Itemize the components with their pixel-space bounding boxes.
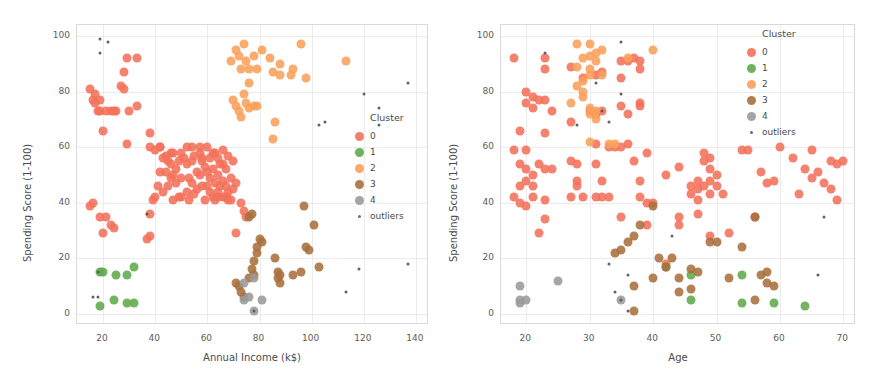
data-point-cluster-0 — [573, 159, 582, 168]
legend-item-0[interactable]: 0 — [740, 44, 796, 60]
data-point-cluster-0 — [826, 184, 835, 193]
data-point-cluster-3 — [763, 268, 772, 277]
data-point-cluster-outliers — [357, 268, 360, 271]
legend-item-1[interactable]: 1 — [348, 144, 404, 160]
y-tick-label: 80 — [46, 86, 70, 96]
y-tick-label: 20 — [470, 252, 494, 262]
data-point-cluster-0 — [156, 168, 165, 177]
x-tick-label: 20 — [96, 333, 107, 343]
data-point-cluster-outliers — [253, 310, 256, 313]
data-point-cluster-1 — [96, 301, 105, 310]
legend-label: 3 — [370, 179, 376, 189]
legend-marker-icon — [747, 96, 756, 105]
legend-item-1[interactable]: 1 — [740, 60, 796, 76]
legend-marker-icon — [358, 215, 361, 218]
data-point-cluster-4 — [239, 279, 248, 288]
data-point-cluster-3 — [271, 254, 280, 263]
x-tick-label: 100 — [302, 333, 319, 343]
data-point-cluster-3 — [310, 221, 319, 230]
legend-swatch-box — [348, 148, 370, 157]
data-point-cluster-1 — [801, 301, 810, 310]
data-point-cluster-0 — [706, 154, 715, 163]
data-point-cluster-2 — [289, 65, 298, 74]
gridline-vertical — [526, 25, 527, 323]
legend-item-3[interactable]: 3 — [740, 92, 796, 108]
gridline-horizontal — [77, 92, 427, 93]
data-point-cluster-0 — [200, 196, 209, 205]
data-point-cluster-0 — [801, 165, 810, 174]
data-point-cluster-0 — [807, 146, 816, 155]
data-point-cluster-outliers — [378, 107, 381, 110]
legend-swatch-box — [740, 131, 762, 134]
data-point-cluster-0 — [224, 196, 233, 205]
data-point-cluster-3 — [674, 287, 683, 296]
y-axis-title-right: Spending Score (1-100) — [448, 144, 459, 262]
data-point-cluster-0 — [232, 179, 241, 188]
data-point-cluster-3 — [737, 243, 746, 252]
data-point-cluster-2 — [592, 57, 601, 66]
data-point-cluster-4 — [554, 276, 563, 285]
legend-item-4[interactable]: 4 — [740, 108, 796, 124]
legend-item-3[interactable]: 3 — [348, 176, 404, 192]
data-point-cluster-0 — [674, 221, 683, 230]
legend-swatch-box — [348, 132, 370, 141]
data-point-cluster-0 — [541, 129, 550, 138]
y-tick-label: 60 — [46, 141, 70, 151]
data-point-cluster-0 — [192, 184, 201, 193]
data-point-cluster-0 — [232, 229, 241, 238]
data-point-cluster-0 — [187, 143, 196, 152]
data-point-cluster-0 — [769, 176, 778, 185]
legend-swatch-box — [348, 180, 370, 189]
legend-label: 1 — [762, 63, 768, 73]
data-point-cluster-4 — [258, 296, 267, 305]
data-point-cluster-outliers — [595, 82, 598, 85]
legend-title-right: Cluster — [762, 28, 796, 39]
legend-item-4[interactable]: 4 — [348, 192, 404, 208]
data-point-cluster-0 — [159, 187, 168, 196]
data-point-cluster-0 — [699, 182, 708, 191]
data-point-cluster-outliers — [99, 51, 102, 54]
data-point-cluster-3 — [649, 273, 658, 282]
data-point-cluster-outliers — [614, 290, 617, 293]
data-point-cluster-0 — [112, 107, 121, 116]
legend-item-outliers[interactable]: outliers — [348, 208, 404, 224]
data-point-cluster-0 — [598, 176, 607, 185]
legend-swatch-box — [740, 96, 762, 105]
data-point-cluster-0 — [516, 182, 525, 191]
gridline-vertical — [843, 25, 844, 323]
y-tick-label: 80 — [470, 86, 494, 96]
x-axis-title-left: Annual Income (k$) — [203, 352, 301, 363]
data-point-cluster-0 — [541, 65, 550, 74]
data-point-cluster-0 — [143, 234, 152, 243]
data-point-cluster-0 — [203, 168, 212, 177]
data-point-cluster-3 — [630, 307, 639, 316]
legend-label: 0 — [370, 131, 376, 141]
data-point-cluster-outliers — [407, 262, 410, 265]
data-point-cluster-0 — [636, 176, 645, 185]
legend-item-2[interactable]: 2 — [740, 76, 796, 92]
x-tick-label: 60 — [773, 333, 784, 343]
data-point-cluster-2 — [649, 46, 658, 55]
legend-item-0[interactable]: 0 — [348, 128, 404, 144]
y-tick-label: 0 — [470, 308, 494, 318]
data-point-cluster-2 — [341, 57, 350, 66]
data-point-cluster-2 — [585, 40, 594, 49]
x-tick-label: 80 — [253, 333, 264, 343]
legend-item-2[interactable]: 2 — [348, 160, 404, 176]
data-point-cluster-outliers — [323, 121, 326, 124]
data-point-cluster-3 — [617, 246, 626, 255]
x-tick-label: 70 — [837, 333, 848, 343]
x-tick-label: 30 — [583, 333, 594, 343]
data-point-cluster-0 — [756, 168, 765, 177]
data-point-cluster-0 — [712, 182, 721, 191]
data-point-cluster-0 — [541, 96, 550, 105]
data-point-cluster-2 — [585, 71, 594, 80]
data-point-cluster-1 — [112, 271, 121, 280]
data-point-cluster-outliers — [620, 93, 623, 96]
legend-marker-icon — [355, 164, 364, 173]
data-point-cluster-outliers — [576, 124, 579, 127]
legend-item-outliers[interactable]: outliers — [740, 124, 796, 140]
data-point-cluster-3 — [668, 254, 677, 263]
gridline-horizontal — [501, 203, 854, 204]
data-point-cluster-2 — [579, 54, 588, 63]
